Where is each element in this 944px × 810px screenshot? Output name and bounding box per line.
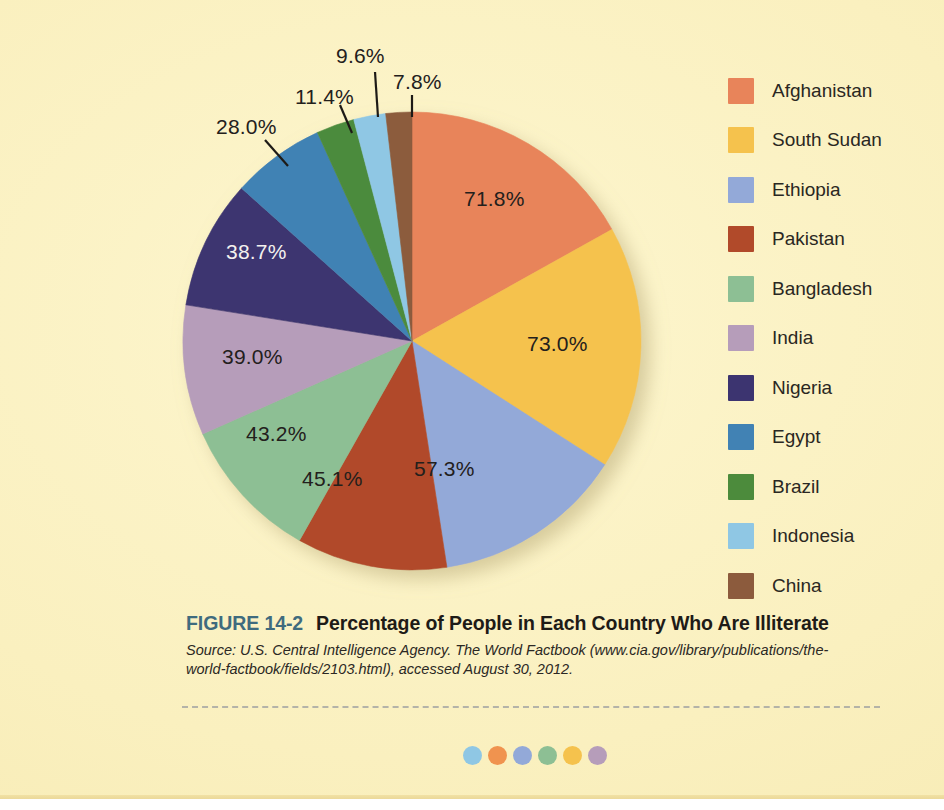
- caption-title-line: FIGURE 14-2Percentage of People in Each …: [186, 612, 898, 635]
- legend-item: Afghanistan: [728, 66, 938, 116]
- decorative-dot-icon: [538, 746, 557, 765]
- legend-swatch-icon: [728, 127, 754, 153]
- slice-label-south-sudan: 73.0%: [527, 332, 588, 356]
- legend-label: Bangladesh: [772, 278, 872, 300]
- slice-label-ethiopia: 57.3%: [414, 457, 475, 481]
- decorative-dots: [463, 746, 607, 765]
- figure-caption: FIGURE 14-2Percentage of People in Each …: [186, 612, 898, 679]
- slice-label-india: 39.0%: [222, 345, 283, 369]
- legend-item: China: [728, 561, 938, 611]
- legend-swatch-icon: [728, 474, 754, 500]
- legend-swatch-icon: [728, 523, 754, 549]
- legend-item: Pakistan: [728, 215, 938, 265]
- slice-label-egypt: 28.0%: [216, 115, 277, 139]
- figure-source: Source: U.S. Central Intelligence Agency…: [186, 641, 846, 679]
- figure-number: FIGURE 14-2: [186, 612, 303, 634]
- decorative-dot-icon: [563, 746, 582, 765]
- legend-swatch-icon: [728, 573, 754, 599]
- legend-item: Egypt: [728, 413, 938, 463]
- pie-chart: 71.8% 73.0% 57.3% 45.1% 43.2% 39.0% 38.7…: [0, 0, 700, 600]
- legend-item: South Sudan: [728, 116, 938, 166]
- legend-swatch-icon: [728, 177, 754, 203]
- legend-item: Nigeria: [728, 363, 938, 413]
- legend-label: Pakistan: [772, 228, 845, 250]
- legend-label: Nigeria: [772, 377, 832, 399]
- chart-legend: Afghanistan South Sudan Ethiopia Pakista…: [728, 66, 938, 611]
- legend-label: Ethiopia: [772, 179, 841, 201]
- leader-line: [375, 72, 378, 117]
- legend-item: Bangladesh: [728, 264, 938, 314]
- legend-item: Ethiopia: [728, 165, 938, 215]
- legend-swatch-icon: [728, 424, 754, 450]
- legend-item: India: [728, 314, 938, 364]
- legend-swatch-icon: [728, 375, 754, 401]
- decorative-dot-icon: [513, 746, 532, 765]
- legend-label: Indonesia: [772, 525, 854, 547]
- legend-label: South Sudan: [772, 129, 882, 151]
- legend-label: Afghanistan: [772, 80, 872, 102]
- slice-label-indonesia: 9.6%: [336, 44, 385, 68]
- legend-label: India: [772, 327, 813, 349]
- legend-item: Brazil: [728, 462, 938, 512]
- slice-label-pakistan: 45.1%: [302, 467, 363, 491]
- slice-label-china: 7.8%: [393, 70, 442, 94]
- decorative-dot-icon: [488, 746, 507, 765]
- legend-swatch-icon: [728, 325, 754, 351]
- section-divider: [182, 706, 880, 708]
- legend-label: China: [772, 575, 822, 597]
- slice-label-bangladesh: 43.2%: [246, 422, 307, 446]
- figure-title: Percentage of People in Each Country Who…: [316, 612, 829, 634]
- page-white-margin: [0, 799, 944, 810]
- decorative-dot-icon: [463, 746, 482, 765]
- legend-item: Indonesia: [728, 512, 938, 562]
- legend-label: Egypt: [772, 426, 821, 448]
- legend-swatch-icon: [728, 78, 754, 104]
- figure-page: 71.8% 73.0% 57.3% 45.1% 43.2% 39.0% 38.7…: [0, 0, 944, 810]
- slice-label-brazil: 11.4%: [295, 85, 354, 109]
- legend-swatch-icon: [728, 276, 754, 302]
- decorative-dot-icon: [588, 746, 607, 765]
- slice-label-afghanistan: 71.8%: [464, 187, 525, 211]
- slice-label-nigeria: 38.7%: [226, 240, 287, 264]
- legend-swatch-icon: [728, 226, 754, 252]
- legend-label: Brazil: [772, 476, 820, 498]
